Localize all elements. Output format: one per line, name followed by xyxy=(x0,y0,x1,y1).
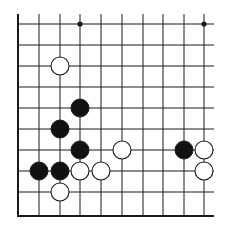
star-point-icon xyxy=(77,21,82,26)
white-stone-icon xyxy=(195,141,213,159)
black-stone-icon xyxy=(51,120,69,138)
black-stone-icon xyxy=(175,141,193,159)
white-stone-icon xyxy=(92,162,110,180)
star-point-icon xyxy=(201,21,206,26)
go-board xyxy=(0,0,227,231)
black-stone-icon xyxy=(71,99,89,117)
white-stone-icon xyxy=(113,141,131,159)
white-stone-icon xyxy=(51,57,69,75)
white-stone-icon xyxy=(71,162,89,180)
grid-lines xyxy=(17,14,214,216)
black-stone-icon xyxy=(71,141,89,159)
black-stone-icon xyxy=(51,162,69,180)
black-stone-icon xyxy=(30,162,48,180)
white-stone-icon xyxy=(195,162,213,180)
white-stone-icon xyxy=(51,183,69,201)
